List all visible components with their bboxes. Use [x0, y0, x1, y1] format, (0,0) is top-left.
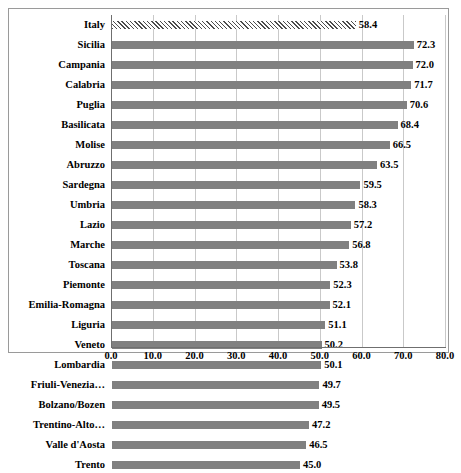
bar-row: Trentino-Alto…47.2 [111, 415, 445, 435]
category-label: Trentino-Alto… [33, 415, 105, 435]
bar [112, 381, 319, 389]
bar-value-label: 58.3 [358, 195, 376, 215]
bar-value-label: 57.2 [354, 215, 372, 235]
x-tick-label: 20.0 [185, 350, 203, 361]
bar [112, 201, 355, 209]
bar-value-label: 49.5 [322, 395, 340, 415]
bar-value-label: 66.5 [393, 135, 411, 155]
bar-row: Toscana53.8 [111, 255, 445, 275]
bar-value-label: 52.1 [333, 295, 351, 315]
bar-row: Marche56.8 [111, 235, 445, 255]
bar [112, 441, 306, 449]
bar-row: Puglia70.6 [111, 95, 445, 115]
bar [112, 221, 351, 229]
bar-value-label: 45.0 [303, 455, 321, 473]
category-label: Lazio [80, 215, 105, 235]
bar-value-label: 59.5 [363, 175, 381, 195]
x-axis-tick-labels: 0.010.020.030.040.050.060.070.080.0 [111, 350, 445, 366]
bar-row: Sicilia72.3 [111, 35, 445, 55]
bar [112, 301, 330, 309]
x-axis-line [111, 347, 446, 348]
bar-row: Molise66.5 [111, 135, 445, 155]
x-tick-label: 40.0 [269, 350, 287, 361]
bar [112, 161, 377, 169]
bar [112, 181, 360, 189]
x-tick-label: 50.0 [311, 350, 329, 361]
x-tick-label: 10.0 [144, 350, 162, 361]
bar [112, 61, 413, 69]
category-label: Lombardia [54, 355, 105, 375]
bar-row: Lazio57.2 [111, 215, 445, 235]
chart-frame: Italy58.4Sicilia72.3Campania72.0Calabria… [8, 8, 449, 353]
bar-value-label: 47.2 [312, 415, 330, 435]
bar-value-label: 53.8 [340, 255, 358, 275]
bar-value-label: 56.8 [352, 235, 370, 255]
x-tick-label: 60.0 [352, 350, 370, 361]
x-tick-label: 80.0 [436, 350, 454, 361]
category-label: Molise [75, 135, 105, 155]
bar [112, 121, 398, 129]
category-label: Abruzzo [67, 155, 106, 175]
bar [112, 421, 309, 429]
bar-value-label: 72.3 [417, 35, 435, 55]
category-label: Basilicata [61, 115, 105, 135]
x-tick-label: 70.0 [394, 350, 412, 361]
bar-row: Italy58.4 [111, 15, 445, 35]
bar-value-label: 49.7 [322, 375, 340, 395]
bar-row: Umbria58.3 [111, 195, 445, 215]
category-label: Campania [58, 55, 105, 75]
category-label: Emilia-Romagna [29, 295, 105, 315]
bar-row: Valle d'Aosta46.5 [111, 435, 445, 455]
category-label: Italy [84, 15, 105, 35]
bar-value-label: 52.3 [333, 275, 351, 295]
bar-value-label: 68.4 [401, 115, 419, 135]
bar [112, 41, 414, 49]
category-label: Puglia [76, 95, 105, 115]
bar [112, 101, 407, 109]
bar-rows: Italy58.4Sicilia72.3Campania72.0Calabria… [111, 15, 445, 347]
x-tick-label: 0.0 [104, 350, 117, 361]
category-label: Sicilia [78, 35, 105, 55]
bar [112, 281, 330, 289]
bar-row: Calabria71.7 [111, 75, 445, 95]
bar-row: Trento45.0 [111, 455, 445, 473]
category-label: Sardegna [62, 175, 105, 195]
bar-value-label: 70.6 [410, 95, 428, 115]
bar-value-label: 51.1 [328, 315, 346, 335]
bar-row: Bolzano/Bozen49.5 [111, 395, 445, 415]
category-label: Valle d'Aosta [46, 435, 105, 455]
bar-value-label: 63.5 [380, 155, 398, 175]
bar [112, 241, 349, 249]
category-label: Calabria [65, 75, 105, 95]
category-label: Umbria [70, 195, 105, 215]
bar [112, 141, 390, 149]
category-label: Trento [75, 455, 105, 473]
bar-row: Liguria51.1 [111, 315, 445, 335]
category-label: Marche [70, 235, 105, 255]
bar [112, 81, 411, 89]
category-label: Toscana [69, 255, 105, 275]
category-label: Veneto [74, 335, 105, 355]
bar-value-label: 71.7 [414, 75, 432, 95]
bar-row: Emilia-Romagna52.1 [111, 295, 445, 315]
category-label: Piemonte [63, 275, 105, 295]
bar-row: Basilicata68.4 [111, 115, 445, 135]
gridline-80.0 [445, 15, 446, 347]
bar-row: Friuli-Venezia…49.7 [111, 375, 445, 395]
bar-row: Campania72.0 [111, 55, 445, 75]
bar [112, 461, 300, 469]
bar-value-label: 58.4 [359, 15, 377, 35]
plot-area: Italy58.4Sicilia72.3Campania72.0Calabria… [111, 15, 445, 347]
category-label: Friuli-Venezia… [31, 375, 105, 395]
bar [112, 21, 356, 29]
bar [112, 321, 325, 329]
category-label: Bolzano/Bozen [38, 395, 105, 415]
bar-row: Piemonte52.3 [111, 275, 445, 295]
category-label: Liguria [71, 315, 105, 335]
bar-row: Abruzzo63.5 [111, 155, 445, 175]
x-tick-label: 30.0 [227, 350, 245, 361]
bar [112, 401, 319, 409]
bar [112, 261, 337, 269]
bar-value-label: 46.5 [309, 435, 327, 455]
bar-row: Sardegna59.5 [111, 175, 445, 195]
